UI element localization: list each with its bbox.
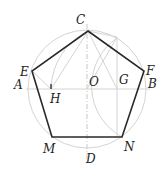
label-n: N (123, 140, 135, 154)
label-a: A (13, 78, 23, 92)
label-o: O (89, 75, 99, 89)
label-e: E (19, 65, 29, 79)
label-b: B (147, 77, 157, 91)
label-d: D (85, 152, 96, 166)
pentagon-construction-diagram: C E A H O G F B M N D (0, 0, 165, 171)
label-h: H (49, 92, 61, 106)
label-c: C (76, 13, 85, 27)
label-g: G (119, 73, 129, 87)
label-m: M (42, 142, 56, 156)
construction-line-c-h (51, 31, 88, 89)
label-f: F (145, 64, 155, 78)
